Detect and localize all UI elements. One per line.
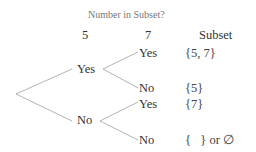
branch-no-no	[100, 121, 138, 140]
subset-7: {7}	[185, 98, 203, 111]
tree-branches	[0, 0, 256, 152]
column-header-subset: Subset	[199, 29, 232, 42]
column-header-7: 7	[145, 29, 151, 42]
column-header-5: 5	[82, 29, 88, 42]
branch-yes-yes	[103, 52, 138, 69]
branch-yes-no	[103, 69, 138, 88]
branch-root-yes	[16, 69, 72, 94]
diagram-title: Number in Subset?	[88, 10, 165, 20]
subset-5: {5}	[185, 82, 203, 95]
branch-root-no	[16, 94, 72, 121]
subset-empty: { } or ∅	[185, 134, 234, 147]
node-5-no: No	[77, 114, 92, 127]
node-no-7-yes: Yes	[139, 98, 157, 111]
node-5-yes: Yes	[77, 63, 95, 76]
node-yes-7-yes: Yes	[139, 47, 157, 60]
subset-5-7: {5, 7}	[185, 47, 216, 60]
node-yes-7-no: No	[139, 82, 154, 95]
node-no-7-no: No	[139, 134, 154, 147]
branch-no-yes	[100, 102, 138, 121]
